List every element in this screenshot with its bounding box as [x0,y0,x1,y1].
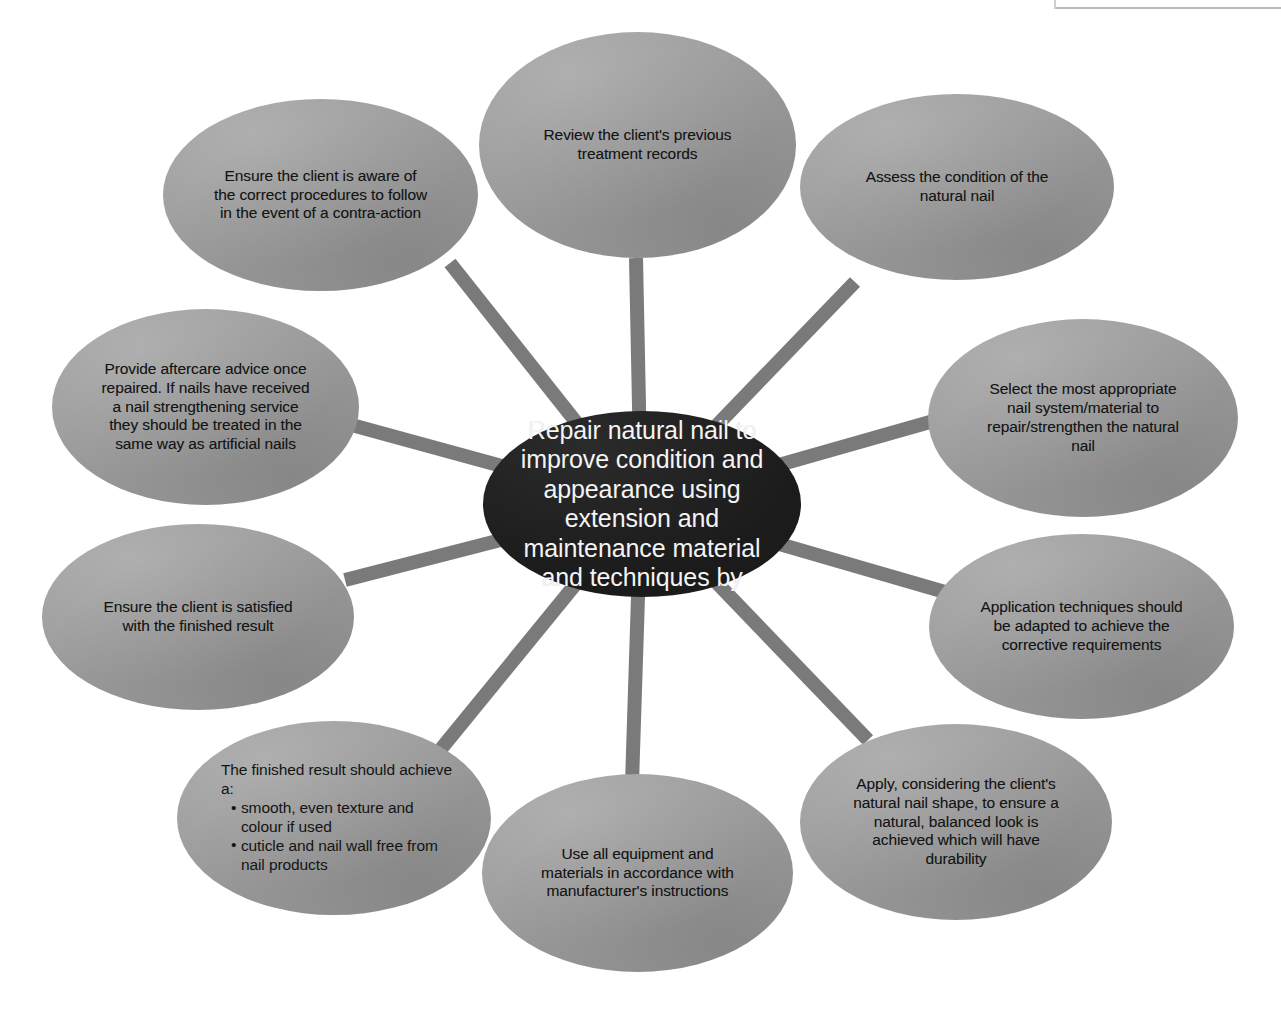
node-use-equipment[interactable]: Use all equipment and materials in accor… [482,774,793,972]
node-assess-condition[interactable]: Assess the condition of the natural nail [800,94,1114,280]
node-finished-result-bullet: smooth, even texture and colour if used [232,799,457,837]
node-client-satisfied-label: Ensure the client is satisfied with the … [42,598,354,636]
node-finished-result-body: The finished result should achieve a: sm… [177,761,491,874]
node-assess-condition-label: Assess the condition of the natural nail [800,168,1114,206]
node-aftercare-advice[interactable]: Provide aftercare advice once repaired. … [52,309,359,505]
node-aftercare-advice-label: Provide aftercare advice once repaired. … [52,360,359,455]
node-finished-result[interactable]: The finished result should achieve a: sm… [177,721,491,915]
node-finished-result-label: The finished result should achieve a: [221,761,457,799]
node-application-techniques[interactable]: Application techniques should be adapted… [929,534,1234,719]
node-contra-action-label: Ensure the client is aware of the correc… [163,167,478,224]
hub-node[interactable]: Repair natural nail to improve condition… [483,411,801,597]
node-finished-result-bullet-list: smooth, even texture and colour if used … [221,799,457,875]
node-contra-action[interactable]: Ensure the client is aware of the correc… [163,99,478,291]
node-finished-result-bullet: cuticle and nail wall free from nail pro… [232,837,457,875]
node-review-records-label: Review the client's previous treatment r… [479,126,796,164]
diagram-canvas: Review the client's previous treatment r… [0,0,1281,1012]
node-select-system-label: Select the most appropriate nail system/… [928,380,1238,456]
node-apply-nail-shape[interactable]: Apply, considering the client's natural … [800,724,1112,920]
node-select-system[interactable]: Select the most appropriate nail system/… [928,319,1238,517]
node-client-satisfied[interactable]: Ensure the client is satisfied with the … [42,524,354,710]
node-application-techniques-label: Application techniques should be adapted… [929,598,1234,655]
node-use-equipment-label: Use all equipment and materials in accor… [482,845,793,902]
node-review-records[interactable]: Review the client's previous treatment r… [479,32,796,258]
hub-label: Repair natural nail to improve condition… [483,416,801,593]
node-apply-nail-shape-label: Apply, considering the client's natural … [800,775,1112,870]
